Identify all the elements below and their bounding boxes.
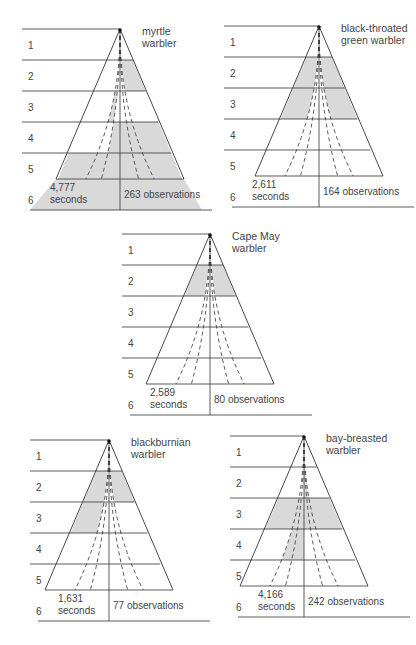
observations-count: 242 observations xyxy=(308,596,384,608)
species-title-line2: green warbler xyxy=(341,34,405,46)
species-title-line1: bay-breasted xyxy=(326,432,387,444)
zone-label-6: 6 xyxy=(230,192,236,203)
zone-label-3: 3 xyxy=(28,102,34,113)
zone-label-1: 1 xyxy=(128,245,134,256)
seconds-label: seconds xyxy=(58,605,95,617)
species-title-line1: Cape May xyxy=(232,230,280,242)
zone-label-2: 2 xyxy=(230,68,236,79)
zone-label-6: 6 xyxy=(236,602,242,613)
zone-label-2: 2 xyxy=(36,482,42,493)
zone-label-4: 4 xyxy=(236,540,242,551)
zone-label-6: 6 xyxy=(28,195,34,206)
species-title-line2: warbler xyxy=(131,448,165,460)
zone-label-1: 1 xyxy=(36,451,42,462)
seconds-label: seconds xyxy=(50,194,87,206)
zone-label-5: 5 xyxy=(230,161,236,172)
panel-myrtle: 123456myrtlewarbler4,777seconds263 obser… xyxy=(22,27,222,217)
zone-label-5: 5 xyxy=(236,571,242,582)
species-title-line2: warbler xyxy=(232,242,266,254)
zone-label-4: 4 xyxy=(28,133,34,144)
seconds-value: 1,631 xyxy=(58,593,83,605)
panel-cape-may: 123456Cape Maywarbler2,589seconds80 obse… xyxy=(122,232,322,422)
species-title-line1: blackburnian xyxy=(131,436,191,448)
observations-count: 80 observations xyxy=(214,394,285,406)
zone-label-4: 4 xyxy=(128,338,134,349)
zone-label-5: 5 xyxy=(28,164,34,175)
zone-label-3: 3 xyxy=(36,513,42,524)
seconds-value: 4,777 xyxy=(50,182,75,194)
zone-label-2: 2 xyxy=(236,478,242,489)
zone-label-6: 6 xyxy=(36,606,42,617)
species-title-line2: warbler xyxy=(326,444,360,456)
zone-label-5: 5 xyxy=(128,369,134,380)
zone-label-1: 1 xyxy=(28,40,34,51)
zone-label-5: 5 xyxy=(36,575,42,586)
zone-label-1: 1 xyxy=(230,37,236,48)
seconds-value: 2,611 xyxy=(252,179,276,191)
species-title-line1: black-throated xyxy=(341,22,408,34)
zone-label-3: 3 xyxy=(230,99,236,110)
observations-count: 263 observations xyxy=(124,189,200,201)
zone-label-6: 6 xyxy=(128,400,134,411)
zone-label-3: 3 xyxy=(128,307,134,318)
zone-label-3: 3 xyxy=(236,509,242,520)
panel-blackburnian: 123456blackburnianwarbler1,631seconds77 … xyxy=(30,438,220,628)
seconds-label: seconds xyxy=(150,399,187,411)
seconds-value: 4,166 xyxy=(258,589,283,601)
zone-label-4: 4 xyxy=(36,544,42,555)
panel-black-throated-green: 123456black-throatedgreen warbler2,611se… xyxy=(224,24,416,214)
observations-count: 77 observations xyxy=(113,600,184,612)
species-title-line1: myrtle xyxy=(142,25,171,37)
observations-count: 164 observations xyxy=(323,186,399,198)
seconds-label: seconds xyxy=(258,601,295,613)
species-title-line2: warbler xyxy=(142,37,176,49)
panel-bay-breasted: 123456bay-breastedwarbler4,166seconds242… xyxy=(230,434,416,624)
seconds-value: 2,589 xyxy=(150,387,175,399)
zone-label-1: 1 xyxy=(236,447,242,458)
zone-label-2: 2 xyxy=(28,71,34,82)
zone-label-2: 2 xyxy=(128,276,134,287)
seconds-label: seconds xyxy=(252,191,289,203)
zone-label-4: 4 xyxy=(230,130,236,141)
